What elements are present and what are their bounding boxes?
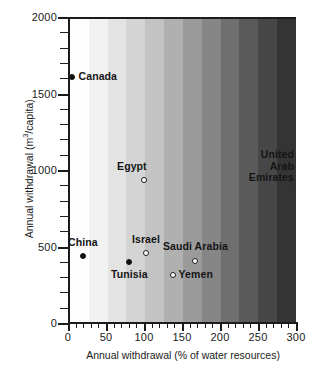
- x-tick-10: [76, 324, 77, 328]
- y-tick-700: [60, 216, 68, 217]
- y-tick-label-0: 0: [51, 317, 57, 329]
- x-tick-label-200: 200: [211, 331, 230, 343]
- data-label-tunisia: Tunisia: [111, 270, 148, 282]
- x-tick-140: [174, 324, 175, 328]
- y-tick-1200: [60, 139, 68, 140]
- x-tick-130: [167, 324, 168, 328]
- gradient-band-0: [70, 19, 89, 323]
- data-label-saudi-arabia: Saudi Arabia: [163, 241, 228, 253]
- y-tick-label-1000: 1000: [32, 164, 57, 176]
- data-point-yemen[interactable]: [170, 272, 176, 278]
- x-tick-200: [220, 324, 222, 331]
- x-tick-170: [197, 324, 198, 328]
- x-tick-110: [152, 324, 153, 328]
- y-tick-200: [60, 292, 68, 293]
- y-axis-title-superscript: 3: [21, 134, 30, 138]
- x-tick-190: [212, 324, 213, 328]
- x-tick-270: [273, 324, 274, 328]
- y-tick-label-2000: 2000: [32, 11, 57, 23]
- data-point-egypt[interactable]: [141, 177, 147, 183]
- y-tick-1300: [60, 124, 68, 125]
- plot-area: CanadaEgyptUnited Arab EmiratesChinaIsra…: [68, 17, 296, 323]
- y-tick-1600: [60, 78, 68, 79]
- x-tick-90: [136, 324, 137, 328]
- x-tick-280: [281, 324, 282, 328]
- data-point-tunisia[interactable]: [126, 259, 132, 265]
- x-tick-0: [68, 324, 70, 331]
- y-tick-2000: [58, 17, 68, 19]
- y-tick-300: [60, 277, 68, 278]
- x-axis-title: Annual withdrawal (% of water resources): [68, 349, 298, 361]
- gradient-band-1: [89, 19, 108, 323]
- y-tick-100: [60, 308, 68, 309]
- y-tick-label-1500: 1500: [32, 88, 57, 100]
- y-tick-800: [60, 201, 68, 202]
- x-tick-250: [258, 324, 260, 331]
- data-point-china[interactable]: [80, 253, 86, 259]
- x-tick-260: [266, 324, 267, 328]
- y-tick-1400: [60, 109, 68, 110]
- scatter-chart: CanadaEgyptUnited Arab EmiratesChinaIsra…: [0, 0, 319, 374]
- y-axis-line: [68, 17, 70, 324]
- x-tick-30: [91, 324, 92, 328]
- x-tick-240: [250, 324, 251, 328]
- y-tick-900: [60, 185, 68, 186]
- y-tick-600: [60, 231, 68, 232]
- data-point-united-arab-emirates[interactable]: [295, 187, 296, 193]
- x-tick-80: [129, 324, 130, 328]
- gradient-band-8: [221, 19, 240, 323]
- x-tick-180: [205, 324, 206, 328]
- x-tick-label-150: 150: [173, 331, 192, 343]
- x-tick-20: [83, 324, 84, 328]
- y-tick-1800: [60, 48, 68, 49]
- y-tick-1700: [60, 63, 68, 64]
- data-label-china: China: [68, 237, 98, 249]
- x-tick-label-100: 100: [135, 331, 154, 343]
- y-tick-label-500: 500: [38, 241, 57, 253]
- y-tick-0: [58, 323, 68, 325]
- y-axis-title: Annual withdrawal (m3/capita): [21, 49, 35, 289]
- y-axis-title-suffix: /capita): [23, 99, 35, 133]
- data-point-saudi-arabia[interactable]: [192, 258, 198, 264]
- y-tick-1900: [60, 32, 68, 33]
- x-tick-60: [114, 324, 115, 328]
- y-tick-1100: [60, 155, 68, 156]
- y-tick-1000: [58, 170, 68, 172]
- y-tick-1500: [58, 94, 68, 96]
- x-tick-label-50: 50: [100, 331, 113, 343]
- x-tick-50: [106, 324, 108, 331]
- x-tick-290: [288, 324, 289, 328]
- x-tick-150: [182, 324, 184, 331]
- data-label-united-arab-emirates: United Arab Emirates: [249, 149, 294, 184]
- x-tick-label-300: 300: [287, 331, 306, 343]
- x-tick-230: [243, 324, 244, 328]
- x-tick-label-250: 250: [249, 331, 268, 343]
- y-axis-title-prefix: Annual withdrawal (m: [23, 138, 35, 238]
- x-tick-label-0: 0: [65, 331, 71, 343]
- x-tick-220: [235, 324, 236, 328]
- data-label-canada: Canada: [79, 71, 118, 83]
- gradient-band-4: [145, 19, 164, 323]
- x-tick-210: [228, 324, 229, 328]
- data-label-israel: Israel: [132, 234, 160, 246]
- x-tick-300: [296, 324, 298, 331]
- data-label-yemen: Yemen: [179, 269, 213, 281]
- y-tick-500: [58, 247, 68, 249]
- x-tick-120: [159, 324, 160, 328]
- y-tick-400: [60, 262, 68, 263]
- x-tick-100: [144, 324, 146, 331]
- data-label-egypt: Egypt: [117, 161, 147, 173]
- x-tick-40: [98, 324, 99, 328]
- data-point-israel[interactable]: [143, 250, 149, 256]
- x-tick-70: [121, 324, 122, 328]
- x-tick-160: [190, 324, 191, 328]
